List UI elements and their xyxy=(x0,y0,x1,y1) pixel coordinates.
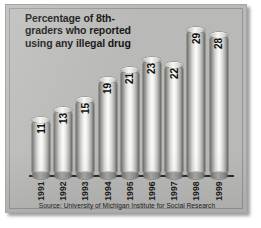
bar-value-label: 11 xyxy=(32,123,50,134)
bar-slot: 13 xyxy=(54,19,72,175)
source-note: Source: University of Michigan Institute… xyxy=(6,202,247,209)
bar: 19 xyxy=(99,80,117,175)
bar-slot: 21 xyxy=(121,19,139,175)
bar-value-label: 28 xyxy=(210,38,228,49)
bar: 21 xyxy=(121,70,139,175)
bar-slot: 29 xyxy=(187,19,205,175)
bar-slot: 19 xyxy=(99,19,117,175)
bar-value-label: 19 xyxy=(99,83,117,94)
bar-value-label: 21 xyxy=(121,73,139,84)
bar: 29 xyxy=(187,30,205,175)
bar-value-label: 13 xyxy=(54,113,72,124)
bar-slot: 23 xyxy=(143,19,161,175)
bar-value-label: 29 xyxy=(187,33,205,44)
bar-slot: 15 xyxy=(76,19,94,175)
bar: 13 xyxy=(54,110,72,175)
chart-panel: Percentage of 8th- graders who reported … xyxy=(5,4,247,213)
bar: 23 xyxy=(143,60,161,175)
bar: 22 xyxy=(165,65,183,175)
chart-screenshot: Percentage of 8th- graders who reported … xyxy=(0,0,261,228)
bar-slot: 11 xyxy=(32,19,50,175)
bar: 15 xyxy=(76,100,94,175)
plot-area: 111315192123222928 xyxy=(24,19,236,177)
bar-slot: 22 xyxy=(165,19,183,175)
bar-slot: 28 xyxy=(210,19,228,175)
bar-value-label: 23 xyxy=(143,63,161,74)
bar-value-label: 22 xyxy=(165,68,183,79)
bar-value-label: 15 xyxy=(76,103,94,114)
bar-series: 111315192123222928 xyxy=(32,19,232,175)
bar: 28 xyxy=(210,35,228,175)
bar: 11 xyxy=(32,120,50,175)
